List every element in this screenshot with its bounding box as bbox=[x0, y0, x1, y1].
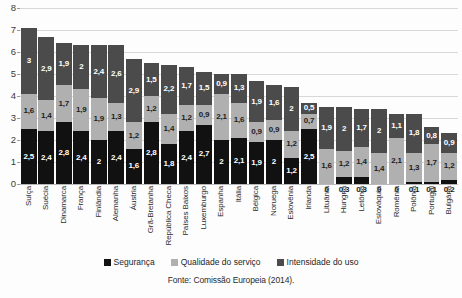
bar-segment-qualidade[interactable]: 0,9 bbox=[266, 120, 282, 140]
bar-segment-qualidade[interactable]: 0,9 bbox=[196, 105, 212, 125]
bar-segment-qualidade[interactable]: 1,9 bbox=[73, 89, 89, 131]
bar-segment-qualidade[interactable]: 1,7 bbox=[56, 85, 72, 122]
bar-segment-seguranca[interactable]: 2,8 bbox=[56, 122, 72, 184]
bar-segment-seguranca[interactable]: 2,4 bbox=[73, 131, 89, 184]
bar-segment-intensidade[interactable]: 3 bbox=[21, 28, 37, 94]
bar-segment-qualidade[interactable]: 1,2 bbox=[179, 105, 195, 131]
bar-segment-qualidade[interactable]: 1,2 bbox=[284, 131, 300, 157]
bar-segment-seguranca[interactable]: 0,1 bbox=[406, 182, 422, 184]
bar-segment-seguranca[interactable]: 2,4 bbox=[108, 131, 124, 184]
bar-segment-intensidade[interactable]: 1,9 bbox=[56, 43, 72, 85]
bar-segment-seguranca[interactable]: 0,2 bbox=[441, 180, 457, 184]
bar-segment-intensidade[interactable]: 1,9 bbox=[319, 107, 335, 149]
bar-segment-seguranca[interactable]: 1,8 bbox=[161, 144, 177, 184]
bar-column[interactable]: 21,20,30,3 bbox=[336, 8, 352, 184]
bar-segment-seguranca[interactable]: 0,1 bbox=[424, 182, 440, 184]
bar-segment-intensidade[interactable]: 0,8 bbox=[424, 127, 440, 145]
bar-segment-qualidade[interactable]: 1,6 bbox=[319, 149, 335, 184]
bar-segment-seguranca[interactable]: 2,4 bbox=[179, 131, 195, 184]
bar-column[interactable]: 21,400 bbox=[371, 8, 387, 184]
bar-segment-qualidade[interactable]: 1,7 bbox=[424, 144, 440, 181]
bar-segment-intensidade[interactable]: 2 bbox=[284, 87, 300, 131]
bar-segment-qualidade[interactable]: 2,1 bbox=[389, 138, 405, 184]
bar-segment-intensidade[interactable]: 1,7 bbox=[179, 67, 195, 104]
bar-segment-qualidade[interactable]: 1,4 bbox=[38, 100, 54, 131]
bar-column[interactable]: 2,91,42,4 bbox=[38, 8, 54, 184]
bar-segment-qualidade[interactable]: 1,6 bbox=[21, 94, 37, 129]
bar-column[interactable]: 1,12,100 bbox=[389, 8, 405, 184]
bar-segment-intensidade[interactable]: 0,9 bbox=[441, 133, 457, 153]
bar-column[interactable]: 1,51,22,8 bbox=[144, 8, 160, 184]
bar-segment-intensidade[interactable]: 2,9 bbox=[38, 37, 54, 101]
bar-column[interactable]: 0,81,70,10,1 bbox=[424, 8, 440, 184]
bar-column[interactable]: 2,21,41,8 bbox=[161, 8, 177, 184]
bar-segment-seguranca[interactable]: 0,3 bbox=[354, 177, 370, 184]
bar-column[interactable]: 2,91,21,6 bbox=[126, 8, 142, 184]
bar-segment-seguranca[interactable]: 1,2 bbox=[284, 158, 300, 184]
bar-segment-intensidade[interactable]: 2 bbox=[371, 109, 387, 153]
bar-column[interactable]: 1,71,40,30,3 bbox=[354, 8, 370, 184]
bar-column[interactable]: 0,92,12 bbox=[214, 8, 230, 184]
legend-item[interactable]: Qualidade do serviço bbox=[171, 258, 261, 267]
bar-segment-qualidade[interactable]: 2,1 bbox=[214, 94, 230, 140]
bar-segment-intensidade[interactable]: 1,6 bbox=[266, 85, 282, 120]
bar-segment-seguranca[interactable]: 0,3 bbox=[336, 177, 352, 184]
bar-column[interactable]: 2,41,92 bbox=[91, 8, 107, 184]
bar-segment-intensidade[interactable]: 2,2 bbox=[161, 65, 177, 113]
bar-segment-qualidade[interactable]: 1,2 bbox=[126, 122, 142, 148]
bar-column[interactable]: 0,91,20,20,2 bbox=[441, 8, 457, 184]
bar-segment-intensidade[interactable]: 1,5 bbox=[144, 63, 160, 96]
bar-segment-intensidade[interactable]: 1,7 bbox=[354, 109, 370, 146]
bar-segment-qualidade[interactable]: 1,4 bbox=[371, 153, 387, 184]
bar-segment-qualidade[interactable]: 1,2 bbox=[144, 96, 160, 122]
bar-segment-intensidade[interactable]: 1,8 bbox=[406, 114, 422, 154]
bar-segment-qualidade[interactable]: 1,4 bbox=[161, 114, 177, 145]
bar-segment-seguranca[interactable]: 2,1 bbox=[231, 138, 247, 184]
bar-column[interactable]: 21,92,4 bbox=[73, 8, 89, 184]
bar-segment-intensidade[interactable]: 2,4 bbox=[91, 45, 107, 98]
bar-segment-qualidade[interactable]: 1,2 bbox=[336, 151, 352, 177]
bar-segment-intensidade[interactable]: 1,1 bbox=[389, 114, 405, 138]
bar-segment-intensidade[interactable]: 0,9 bbox=[214, 74, 230, 94]
bar-column[interactable]: 1,91,600 bbox=[319, 8, 335, 184]
bar-segment-intensidade[interactable]: 1,9 bbox=[249, 81, 265, 123]
bar-segment-qualidade[interactable]: 0,7 bbox=[301, 114, 317, 129]
bar-column[interactable]: 21,21,2 bbox=[284, 8, 300, 184]
bar-segment-seguranca[interactable]: 2 bbox=[266, 140, 282, 184]
bar-column[interactable]: 1,60,92 bbox=[266, 8, 282, 184]
bar-column[interactable]: 1,71,22,4 bbox=[179, 8, 195, 184]
bar-segment-seguranca[interactable]: 2,8 bbox=[144, 122, 160, 184]
bar-segment-intensidade[interactable]: 2 bbox=[73, 45, 89, 89]
bar-segment-intensidade[interactable]: 2,6 bbox=[108, 45, 124, 102]
bar-segment-intensidade[interactable]: 2 bbox=[336, 107, 352, 151]
bar-segment-qualidade[interactable]: 0,9 bbox=[249, 122, 265, 142]
bar-segment-intensidade[interactable]: 1,5 bbox=[196, 72, 212, 105]
bar-segment-seguranca[interactable]: 2,7 bbox=[196, 125, 212, 184]
bar-segment-qualidade[interactable]: 1,3 bbox=[406, 153, 422, 182]
bar-column[interactable]: 31,62,5 bbox=[21, 8, 37, 184]
bar-segment-seguranca[interactable]: 1,6 bbox=[126, 149, 142, 184]
bar-segment-intensidade[interactable]: 2,9 bbox=[126, 59, 142, 123]
bar-column[interactable]: 1,90,91,9 bbox=[249, 8, 265, 184]
bar-segment-qualidade[interactable]: 1,2 bbox=[441, 153, 457, 179]
bar-column[interactable]: 2,61,32,4 bbox=[108, 8, 124, 184]
bar-segment-seguranca[interactable]: 2,5 bbox=[21, 129, 37, 184]
bar-segment-seguranca[interactable]: 2 bbox=[214, 140, 230, 184]
bar-column[interactable]: 1,81,30,10,1 bbox=[406, 8, 422, 184]
bar-segment-qualidade[interactable]: 1,6 bbox=[231, 103, 247, 138]
bar-column[interactable]: 0,50,72,5 bbox=[301, 8, 317, 184]
bar-column[interactable]: 1,50,92,7 bbox=[196, 8, 212, 184]
bar-column[interactable]: 1,31,62,1 bbox=[231, 8, 247, 184]
bar-segment-qualidade[interactable]: 1,3 bbox=[108, 103, 124, 132]
bar-segment-qualidade[interactable]: 1,4 bbox=[354, 147, 370, 178]
legend-item[interactable]: Intensidade do uso bbox=[277, 258, 359, 267]
bar-segment-seguranca[interactable]: 2 bbox=[91, 140, 107, 184]
bar-segment-intensidade[interactable]: 0,5 bbox=[301, 103, 317, 114]
legend-item[interactable]: Segurança bbox=[104, 258, 155, 267]
bar-segment-qualidade[interactable]: 1,9 bbox=[91, 98, 107, 140]
bar-segment-seguranca[interactable]: 2,5 bbox=[301, 129, 317, 184]
bar-segment-seguranca[interactable]: 1,9 bbox=[249, 142, 265, 184]
bar-segment-intensidade[interactable]: 1,3 bbox=[231, 74, 247, 103]
bar-segment-seguranca[interactable]: 2,4 bbox=[38, 131, 54, 184]
bar-column[interactable]: 1,91,72,8 bbox=[56, 8, 72, 184]
